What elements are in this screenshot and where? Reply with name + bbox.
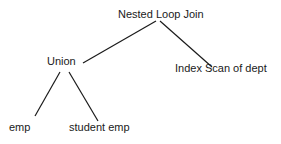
edge-union-emp [35,72,60,116]
node-index-scan-dept: Index Scan of dept [175,62,267,75]
edge-root-union [83,21,156,63]
node-emp: emp [9,121,30,134]
node-student-emp: student emp [69,121,130,134]
node-union: Union [47,55,76,68]
node-nested-loop-join: Nested Loop Join [118,8,204,21]
edge-union-student-emp [69,72,98,121]
edge-root-index-scan [160,21,212,67]
